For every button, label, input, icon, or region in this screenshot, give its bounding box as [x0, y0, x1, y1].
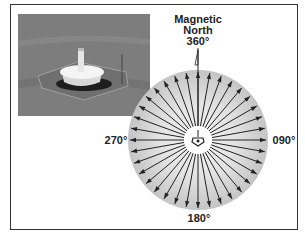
- 360-label: 360°: [170, 36, 226, 47]
- east-090-label: 090°: [271, 135, 297, 146]
- compass-rose: [0, 0, 305, 247]
- magnetic-north-label: Magnetic North 360°: [170, 14, 226, 47]
- south-180-label: 180°: [186, 213, 212, 224]
- west-270-label: 270°: [104, 135, 128, 146]
